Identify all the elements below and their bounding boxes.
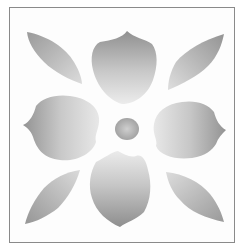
petal-top [92, 31, 157, 104]
leaf-top-right [168, 34, 224, 90]
floral-stencil-artwork [0, 0, 247, 252]
leaf-bottom-left [25, 170, 80, 224]
petal-bottom [90, 151, 150, 227]
center-dot [115, 118, 139, 140]
petal-left [23, 95, 99, 160]
petal-right [154, 101, 226, 158]
leaf-top-left [27, 32, 82, 84]
leaf-bottom-right [166, 172, 224, 222]
